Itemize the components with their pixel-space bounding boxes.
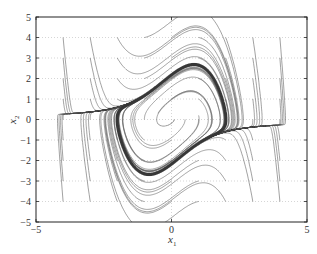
trajectory-line [59,64,226,181]
trajectory-line [117,58,284,175]
y-tick-label: −4 [20,196,31,207]
trajectory-line [108,64,226,201]
trajectory-line [112,64,227,189]
trajectory-line [117,47,232,175]
y-tick-label: 2 [26,73,31,84]
y-tick-label: −2 [20,155,31,166]
y-tick-labels: −5−4−3−2−1012345 [20,12,31,228]
trajectory-line [111,64,226,192]
y-tick-label: −1 [20,135,31,146]
y-tick-label: 0 [26,114,31,125]
x-axis-label: x1 [167,233,177,248]
y-tick-label: −5 [20,217,31,228]
trajectory-line [90,58,226,174]
x-tick-label: −5 [31,224,42,235]
y-tick-label: 3 [26,53,31,64]
y-tick-label: 5 [26,12,31,23]
trajectory-line [117,65,253,181]
x-tick-label: 5 [305,224,310,235]
y-tick-label: 1 [26,94,31,105]
y-axis-label: x2 [6,115,21,125]
grid-lines [36,17,307,222]
trajectory-line [117,44,233,175]
y-tick-label: −3 [20,176,31,187]
y-tick-label: 4 [26,32,31,43]
phase-portrait-chart: −5−4−3−2−1012345 −505 x1 x2 [0,0,317,254]
